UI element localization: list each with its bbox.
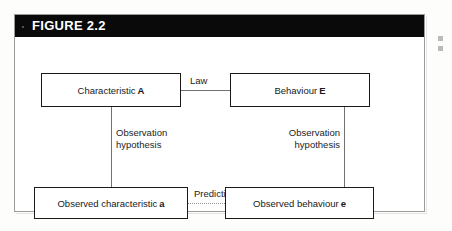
- diagram-canvas: Law Observation hypothesis Observation h…: [15, 37, 424, 211]
- node-observed-behaviour-e: Observed behavioure: [225, 187, 374, 219]
- figure-header-bar: FIGURE 2.2: [15, 15, 424, 37]
- margin-text-fragment: [438, 46, 443, 51]
- node-label: Observed behaviour: [253, 198, 339, 209]
- edge-observation-right-connector: [344, 107, 345, 187]
- node-label: Characteristic: [78, 85, 136, 96]
- scan-shadow-right: [426, 16, 427, 214]
- node-label: Observed characteristic: [57, 198, 157, 209]
- observation-label-line1: Observation: [274, 127, 340, 139]
- edge-label-observation-hypothesis-left: Observation hypothesis: [116, 127, 167, 150]
- figure-title: FIGURE 2.2: [32, 18, 106, 34]
- observation-label-line2: hypothesis: [274, 139, 340, 151]
- node-emphasis: e: [339, 198, 346, 209]
- scanned-page: FIGURE 2.2 Law Observation hypothesis Ob…: [0, 0, 452, 231]
- edge-prediction-connector: [188, 203, 225, 204]
- node-emphasis: A: [136, 85, 145, 96]
- edge-law-connector: [181, 90, 230, 91]
- edge-label-observation-hypothesis-right: Observation hypothesis: [274, 127, 340, 150]
- figure-frame: FIGURE 2.2 Law Observation hypothesis Ob…: [14, 14, 425, 212]
- node-behaviour-e: BehaviourE: [230, 73, 370, 107]
- node-label: Behaviour: [274, 85, 317, 96]
- margin-text-fragment: [438, 36, 443, 41]
- node-observed-characteristic-a: Observed characteristica: [34, 187, 188, 219]
- edge-label-law: Law: [190, 75, 207, 87]
- edge-observation-left-connector: [111, 107, 112, 187]
- node-emphasis: E: [317, 85, 325, 96]
- header-dot-artifact: [22, 26, 24, 28]
- node-emphasis: a: [157, 198, 164, 209]
- observation-label-line2: hypothesis: [116, 139, 167, 151]
- observation-label-line1: Observation: [116, 127, 167, 139]
- node-characteristic-a: CharacteristicA: [41, 73, 181, 107]
